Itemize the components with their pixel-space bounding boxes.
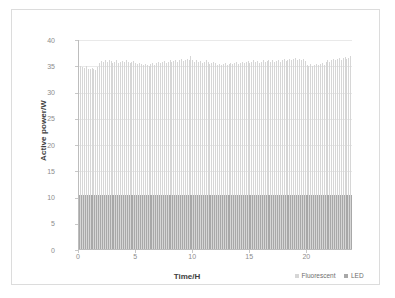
bar [212, 195, 213, 250]
gridline [78, 40, 352, 41]
x-axis-tick-label: 5 [120, 253, 150, 260]
bar [210, 195, 211, 250]
bar [328, 195, 329, 250]
bar [309, 195, 310, 250]
bar [121, 195, 122, 250]
bar [334, 195, 335, 250]
y-axis-tick-label: 35 [15, 63, 55, 70]
bar [81, 195, 82, 250]
bar [180, 195, 181, 250]
bar [307, 195, 308, 250]
bar [201, 195, 202, 250]
bar [224, 195, 225, 250]
x-axis-tick-label: 20 [291, 253, 321, 260]
bar [148, 195, 149, 250]
bar [191, 195, 192, 250]
bar [325, 195, 326, 250]
bar [245, 195, 246, 250]
bar [102, 195, 103, 250]
bar [140, 195, 141, 250]
bar [269, 195, 270, 250]
bar [294, 195, 295, 250]
bar [226, 195, 227, 250]
bar [144, 195, 145, 250]
bar [115, 195, 116, 250]
chart-figure: Active power/W 0510152025303540 05101520… [0, 0, 395, 298]
bar [258, 195, 259, 250]
bar [153, 195, 154, 250]
bar [285, 195, 286, 250]
bar [216, 195, 217, 250]
bar [150, 195, 151, 250]
y-axis-tick-label: 10 [15, 194, 55, 201]
bar [207, 195, 208, 250]
bar [317, 195, 318, 250]
bar [174, 195, 175, 250]
bar [123, 195, 124, 250]
bar [228, 195, 229, 250]
bar [323, 195, 324, 250]
bar [233, 195, 234, 250]
bar [319, 195, 320, 250]
bar [117, 195, 118, 250]
bar [190, 195, 191, 250]
bar [271, 195, 272, 250]
bar [163, 195, 164, 250]
chart-frame: Active power/W 0510152025303540 05101520… [11, 9, 380, 285]
bar [351, 195, 352, 250]
bar [249, 195, 250, 250]
bar [98, 195, 99, 250]
bar [273, 195, 274, 250]
x-axis-line [78, 249, 352, 250]
bar [344, 195, 345, 250]
y-axis-tick-label: 30 [15, 89, 55, 96]
bar [288, 195, 289, 250]
x-axis-tick-label: 15 [234, 253, 264, 260]
bar [222, 195, 223, 250]
bar [218, 195, 219, 250]
bar [241, 195, 242, 250]
bar [262, 195, 263, 250]
bar [100, 195, 101, 250]
bar [260, 195, 261, 250]
y-axis-tick-label: 40 [15, 37, 55, 44]
bar [188, 195, 189, 250]
bar [338, 195, 339, 250]
bar [239, 195, 240, 250]
legend-swatch-icon [344, 274, 348, 278]
x-axis-tick-mark [135, 250, 136, 253]
bar [165, 195, 166, 250]
bar [321, 195, 322, 250]
bar [252, 195, 253, 250]
bar [340, 195, 341, 250]
bar [235, 195, 236, 250]
bar [209, 195, 210, 250]
bar [346, 195, 347, 250]
bar [300, 195, 301, 250]
bar [172, 195, 173, 250]
bar [231, 195, 232, 250]
y-axis-tick-label: 5 [15, 220, 55, 227]
bar [283, 195, 284, 250]
bar [306, 195, 307, 250]
bar [214, 195, 215, 250]
bar [220, 195, 221, 250]
bar [298, 195, 299, 250]
legend-swatch-icon [295, 274, 299, 278]
bar [87, 195, 88, 250]
bar [237, 195, 238, 250]
bar [349, 195, 350, 250]
bar [178, 195, 179, 250]
bar [157, 195, 158, 250]
x-axis-tick-mark [306, 250, 307, 253]
bar [169, 195, 170, 250]
bar [167, 195, 168, 250]
legend-label: LED [351, 272, 364, 279]
bar [199, 195, 200, 250]
bar [266, 195, 267, 250]
y-axis-tick-label: 0 [15, 247, 55, 254]
bar [256, 195, 257, 250]
bar [104, 195, 105, 250]
bar [247, 195, 248, 250]
bar [170, 195, 171, 250]
